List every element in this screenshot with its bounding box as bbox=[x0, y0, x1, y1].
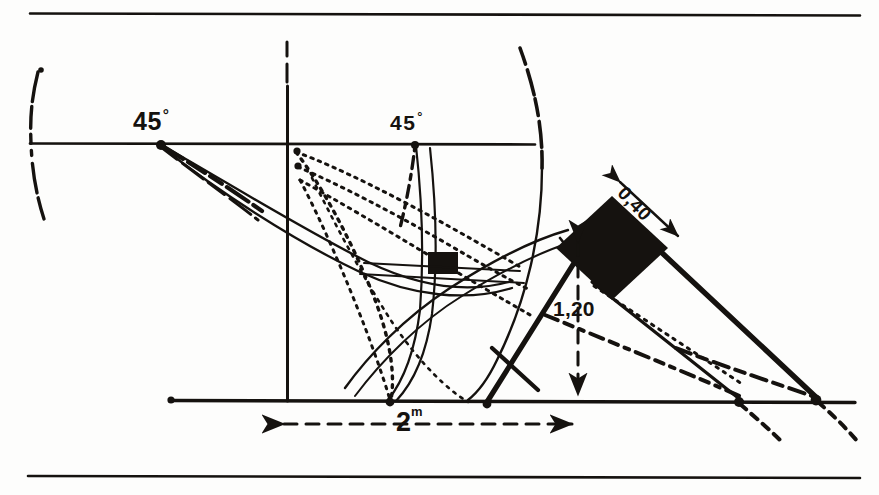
leader-left-upper bbox=[161, 145, 262, 211]
ground-line bbox=[170, 401, 855, 403]
degree-symbol-right: ° bbox=[417, 109, 424, 124]
trajectory-band-upper bbox=[163, 146, 512, 287]
arc-left bbox=[31, 72, 45, 222]
height-dimension-label: 1,20 bbox=[553, 298, 595, 319]
width-dimension-unit: m bbox=[411, 404, 423, 419]
dotted-path-2 bbox=[298, 167, 530, 290]
degree-symbol-left: ° bbox=[163, 106, 170, 123]
ground-start-dot bbox=[167, 396, 174, 403]
ground-tail-2 bbox=[818, 402, 858, 442]
technical-drawing-canvas bbox=[0, 0, 879, 495]
angle-label-left-value: 45 bbox=[133, 107, 162, 135]
leader-left-lower bbox=[161, 147, 258, 220]
leader-right bbox=[400, 146, 415, 228]
arc-right bbox=[520, 48, 542, 170]
dotted-path-1 bbox=[296, 152, 522, 268]
ground-dot-b bbox=[483, 400, 492, 409]
load-block-small bbox=[428, 252, 458, 274]
frame-top-rule bbox=[30, 14, 860, 16]
angle-label-left: 45° bbox=[133, 108, 169, 134]
angle-label-right: 45° bbox=[390, 111, 423, 133]
dotted-path-5 bbox=[300, 180, 390, 400]
arc-left-top-dot bbox=[38, 67, 44, 73]
ground-tail-1 bbox=[740, 404, 780, 440]
pivot-right-dot bbox=[411, 141, 419, 149]
dotted-path-3 bbox=[300, 180, 532, 316]
width-dimension-value: 2 bbox=[396, 407, 411, 437]
ground-dot-a bbox=[386, 398, 395, 407]
drawing-page: 45° 45° 1,20 2m 0,40 bbox=[0, 0, 879, 495]
ground-dot-d bbox=[811, 395, 822, 406]
horizontal-axis bbox=[30, 144, 535, 145]
angle-label-right-value: 45 bbox=[390, 111, 416, 134]
frame-bottom-rule bbox=[28, 476, 860, 478]
sweep-curve-2 bbox=[396, 148, 436, 401]
sweep-curve-4 bbox=[355, 244, 566, 396]
cluster-dot-1 bbox=[293, 147, 300, 154]
width-dimension-label: 2m bbox=[396, 409, 423, 436]
ground-dot-c bbox=[734, 397, 744, 407]
cluster-dot-2 bbox=[294, 162, 301, 169]
cable-dotted-1 bbox=[594, 286, 742, 384]
cable-dashed-2 bbox=[545, 315, 744, 398]
pivot-left-dot bbox=[156, 140, 166, 150]
